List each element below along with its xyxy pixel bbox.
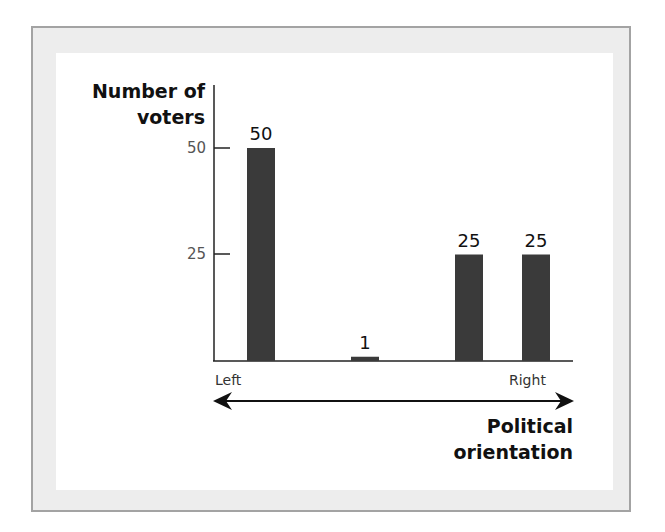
bar [247, 148, 275, 361]
y-axis-title-line-2: voters [92, 104, 205, 130]
bar-value-label: 25 [511, 230, 561, 251]
bar-value-label: 25 [444, 230, 494, 251]
bar-value-label: 50 [236, 123, 286, 144]
bar [522, 255, 550, 362]
y-tick-label-25: 25 [166, 245, 206, 263]
bar [455, 255, 483, 362]
bar-value-label: 1 [340, 332, 390, 353]
x-axis-left-label: Left [215, 372, 241, 388]
x-axis-title: Political orientation [454, 413, 573, 465]
y-tick-label-50: 50 [166, 139, 206, 157]
x-axis-title-line-1: Political [454, 413, 573, 439]
bars-group [247, 148, 550, 361]
y-axis-title-line-1: Number of [92, 78, 205, 104]
bar [351, 357, 379, 361]
x-axis-title-line-2: orientation [454, 439, 573, 465]
x-axis-right-label: Right [509, 372, 546, 388]
y-axis-title: Number of voters [92, 78, 205, 130]
